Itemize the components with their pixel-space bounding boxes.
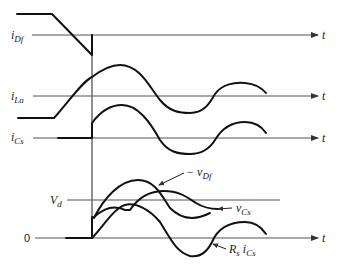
vCs-pointer xyxy=(218,208,232,209)
trace-iDf: iDf t xyxy=(11,14,326,55)
iCs-label: iCs xyxy=(11,130,24,146)
vDf-pointer xyxy=(159,173,184,185)
iLa-label: iLa xyxy=(11,89,24,105)
Vd-label: Vd xyxy=(50,193,62,209)
neg-vDf-waveform xyxy=(94,180,210,218)
vCs-label: vCs xyxy=(236,201,251,217)
zero-t-label: t xyxy=(322,231,326,245)
RsiCs-pointer xyxy=(213,244,226,249)
iLa-t-label: t xyxy=(322,89,326,103)
waveform-diagram: iDf t iLa t iCs t Vd 0 t − vD xyxy=(0,0,342,267)
iCs-waveform xyxy=(58,105,266,154)
iDf-label: iDf xyxy=(11,28,25,44)
iDf-t-label: t xyxy=(322,28,326,42)
trace-iLa: iLa t xyxy=(11,65,326,118)
zero-label: 0 xyxy=(24,232,30,244)
neg-vDf-label: − vDf xyxy=(186,165,213,181)
iLa-waveform xyxy=(18,65,266,118)
RsiCs-label: RsiCs xyxy=(228,242,256,258)
iCs-t-label: t xyxy=(322,131,326,145)
voltage-panel: Vd 0 t − vDf vCs RsiCs xyxy=(24,165,326,258)
